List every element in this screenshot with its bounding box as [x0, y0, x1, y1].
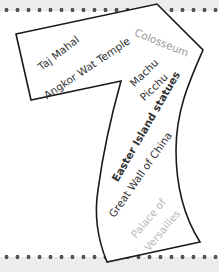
number-seven-cutout [0, 0, 219, 272]
